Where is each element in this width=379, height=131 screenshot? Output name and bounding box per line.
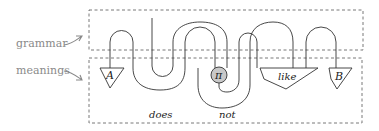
grammar-region xyxy=(89,10,363,50)
word-does: does xyxy=(149,109,172,120)
meanings-label: meanings xyxy=(16,64,70,77)
box-like-label: like xyxy=(278,71,296,82)
wire-not-inner xyxy=(219,33,257,92)
grammar-label: grammar xyxy=(16,37,68,50)
word-not: not xyxy=(219,109,236,120)
pi-label: π xyxy=(214,69,223,82)
wire-a-snake xyxy=(110,27,215,90)
box-a-label: A xyxy=(105,69,114,82)
diagram-canvas: grammar meanings A π like B does not xyxy=(0,0,379,131)
wire-like-b xyxy=(306,27,336,68)
box-b-label: B xyxy=(334,70,343,83)
